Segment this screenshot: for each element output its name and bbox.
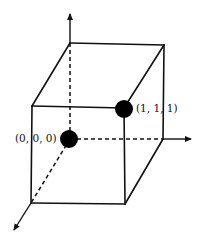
point-opposite bbox=[115, 100, 133, 118]
cube-drawing bbox=[0, 0, 200, 241]
label-opposite: (1, 1, 1) bbox=[136, 103, 178, 114]
edge-back-right-vertical bbox=[163, 45, 164, 139]
edge-bottom-right bbox=[125, 139, 163, 204]
cube-diagram: (0, 0, 0) (1, 1, 1) bbox=[0, 0, 200, 241]
edge-front-left-vertical bbox=[31, 106, 32, 203]
edge-top-front bbox=[32, 106, 124, 108]
point-origin bbox=[60, 130, 78, 148]
hidden-edge-depth bbox=[31, 139, 70, 203]
depth-axis-arrow bbox=[14, 203, 31, 230]
label-origin: (0, 0, 0) bbox=[15, 133, 57, 144]
edge-top-right bbox=[124, 45, 164, 108]
edge-top-left bbox=[32, 43, 70, 106]
edge-top-back bbox=[70, 43, 164, 45]
edge-front-right-vertical bbox=[124, 108, 125, 204]
edge-bottom-front bbox=[31, 203, 125, 204]
